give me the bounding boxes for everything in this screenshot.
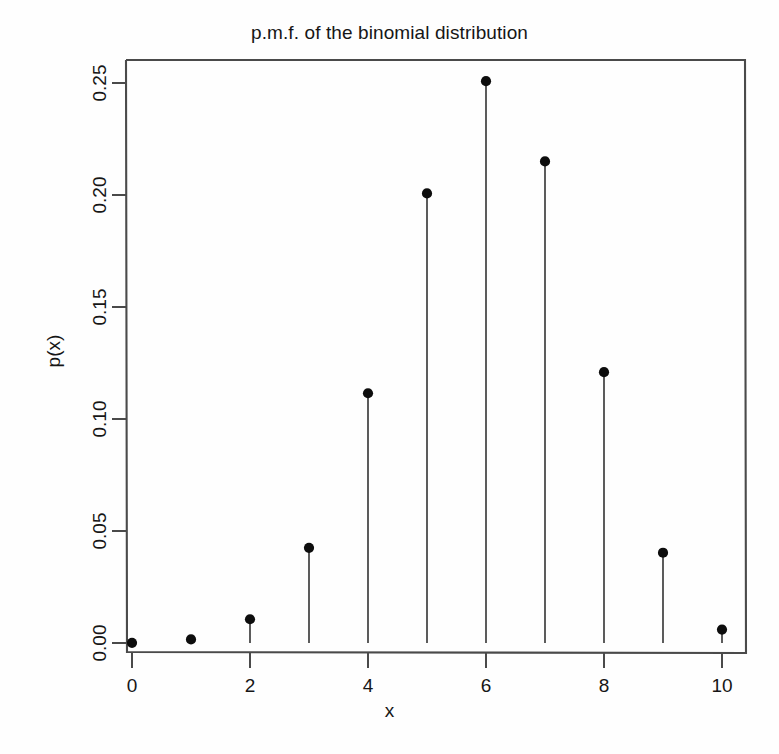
x-axis-ticks: 0246810 (127, 653, 733, 696)
y-tick-label: 0.15 (89, 289, 110, 326)
data-point-marker (186, 634, 196, 644)
data-point-marker (245, 614, 255, 624)
plot-frame (126, 60, 746, 653)
y-tick-label: 0.05 (89, 513, 110, 550)
plot-area: 0.000.050.100.150.200.25 0246810 (0, 0, 779, 754)
data-point-marker (304, 543, 314, 553)
data-point-marker (481, 76, 491, 86)
data-point-marker (599, 367, 609, 377)
y-axis-ticks: 0.000.050.100.150.200.25 (89, 65, 127, 662)
x-tick-label: 4 (363, 675, 374, 696)
chart-page: p.m.f. of the binomial distribution 0.00… (0, 0, 779, 754)
x-axis-title: x (0, 700, 779, 722)
stem-lines (250, 81, 722, 643)
data-point-marker (540, 156, 550, 166)
x-tick-label: 6 (481, 675, 492, 696)
y-tick-label: 0.00 (89, 625, 110, 662)
x-tick-label: 10 (711, 675, 732, 696)
y-tick-label: 0.10 (89, 401, 110, 438)
data-point-marker (127, 638, 137, 648)
data-point-marker (658, 548, 668, 558)
data-point-marker (363, 388, 373, 398)
y-tick-label: 0.25 (89, 65, 110, 102)
x-tick-label: 0 (127, 675, 138, 696)
data-point-marker (717, 624, 727, 634)
y-axis-title: p(x) (43, 291, 65, 411)
x-tick-label: 8 (599, 675, 610, 696)
y-tick-label: 0.20 (89, 177, 110, 214)
x-tick-label: 2 (245, 675, 256, 696)
data-point-marker (422, 188, 432, 198)
